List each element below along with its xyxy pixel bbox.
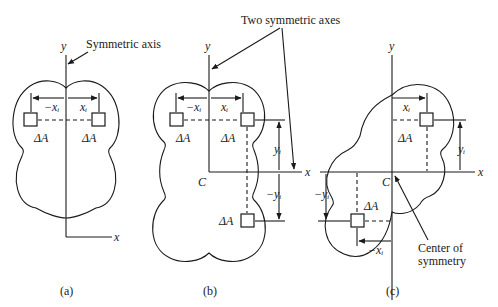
y-axis-label-c: y: [388, 39, 395, 53]
pos-x-label-a: xᵢ: [79, 100, 87, 114]
annotation-arrow-b-x: [282, 28, 294, 169]
center-of-symmetry-line2: symmetry: [418, 254, 466, 268]
area-label-bottom-b: ΔA: [218, 214, 234, 228]
panel-b: y x C Two symmetric axes −xᵢ xᵢ ΔA ΔA ΔA…: [153, 13, 341, 298]
pos-x-label-c: xᵢ: [402, 100, 410, 114]
pos-y-label-c: yᵢ: [457, 142, 465, 156]
caption-a: (a): [60, 284, 73, 298]
y-axis-label-a: y: [60, 39, 67, 53]
neg-x-label-b: −xᵢ: [186, 100, 201, 114]
center-of-symmetry-line1: Center of: [418, 241, 463, 255]
pos-y-label-b: yᵢ: [273, 142, 281, 156]
shape-outline-c: [325, 85, 453, 257]
area-element-left-a: [24, 113, 37, 126]
annotation-arrow-b-y: [212, 28, 280, 69]
panel-a: y x Symmetric axis −xᵢ xᵢ ΔA ΔA (a): [13, 37, 161, 298]
center-annotation-arrow-c: [395, 176, 428, 240]
two-symmetric-axes-annotation: Two symmetric axes: [241, 13, 340, 27]
x-axis-label-b: x: [304, 165, 311, 179]
annotation-arrow-a: [68, 52, 88, 64]
area-element-right-a: [92, 113, 105, 126]
neg-y-label-c: −yᵢ: [314, 187, 329, 201]
area-label-top-left-b: ΔA: [175, 131, 191, 145]
center-label-b: C: [198, 175, 207, 189]
area-element-top-right-b: [241, 113, 254, 126]
area-label-left-a: ΔA: [33, 131, 49, 145]
x-axis-label-a: x: [113, 230, 120, 244]
area-element-top-left-b: [170, 113, 183, 126]
neg-y-label-b: −yᵢ: [266, 187, 281, 201]
center-label-c: C: [382, 175, 391, 189]
pos-x-label-b: xᵢ: [220, 100, 228, 114]
x-axis-label-c: x: [477, 165, 484, 179]
area-label-right-a: ΔA: [81, 131, 97, 145]
area-element-top-c: [420, 113, 433, 126]
symmetry-diagram: y x Symmetric axis −xᵢ xᵢ ΔA ΔA (a) y x …: [0, 0, 498, 307]
caption-b: (b): [203, 284, 217, 298]
area-label-bottom-c: ΔA: [363, 199, 379, 213]
caption-c: (c): [386, 284, 399, 298]
neg-x-label-c: −xᵢ: [368, 243, 383, 257]
area-label-top-c: ΔA: [397, 131, 413, 145]
neg-x-label-a: −xᵢ: [44, 100, 59, 114]
area-element-bottom-c: [351, 214, 364, 227]
area-label-top-right-b: ΔA: [220, 131, 236, 145]
y-axis-label-b: y: [204, 39, 211, 53]
area-element-bottom-b: [241, 214, 254, 227]
symmetric-axis-annotation: Symmetric axis: [86, 37, 161, 51]
panel-c: y x C xᵢ ΔA yᵢ ΔA −xᵢ −yᵢ Center of symm…: [314, 39, 484, 300]
